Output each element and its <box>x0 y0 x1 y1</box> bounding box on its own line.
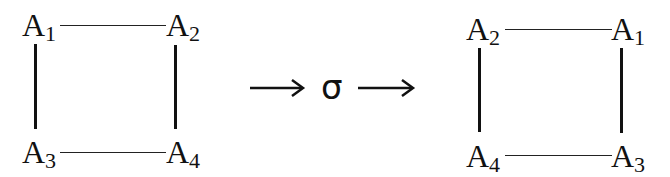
permutation-diagram: A1 A2 A3 A4 σ A2 A1 A4 A3 <box>0 0 670 177</box>
arrow-right-icon <box>248 78 306 98</box>
arrow-right-icon <box>356 78 416 98</box>
left-node-top-right: A2 <box>166 9 200 45</box>
left-edge-right <box>174 45 177 129</box>
right-node-bottom-right: A3 <box>611 140 645 176</box>
sigma-symbol: σ <box>321 70 343 104</box>
right-edge-top <box>505 29 612 30</box>
right-node-bottom-left: A4 <box>466 140 500 176</box>
left-edge-left <box>34 44 37 129</box>
right-node-top-left: A2 <box>466 13 500 49</box>
right-edge-bottom <box>505 155 612 156</box>
left-edge-top <box>60 25 166 26</box>
left-node-top-left: A1 <box>22 9 56 45</box>
right-node-top-right: A1 <box>611 13 645 49</box>
left-node-bottom-right: A4 <box>166 136 200 172</box>
left-edge-bottom <box>60 152 166 153</box>
right-edge-right <box>620 48 623 133</box>
left-node-bottom-left: A3 <box>22 136 56 172</box>
right-edge-left <box>478 48 481 132</box>
